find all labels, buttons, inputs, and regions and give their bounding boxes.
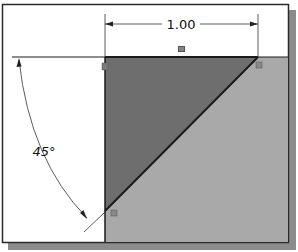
vertex-marker-icon[interactable] — [102, 63, 108, 70]
sketch-canvas: 1.00 45° — [0, 0, 298, 252]
vertex-marker-icon[interactable] — [256, 62, 262, 68]
vertex-marker-icon[interactable] — [111, 210, 117, 216]
angular-dimension-label[interactable]: 45° — [32, 144, 55, 159]
equal-icon[interactable] — [178, 46, 185, 52]
linear-dimension-label[interactable]: 1.00 — [167, 17, 196, 32]
